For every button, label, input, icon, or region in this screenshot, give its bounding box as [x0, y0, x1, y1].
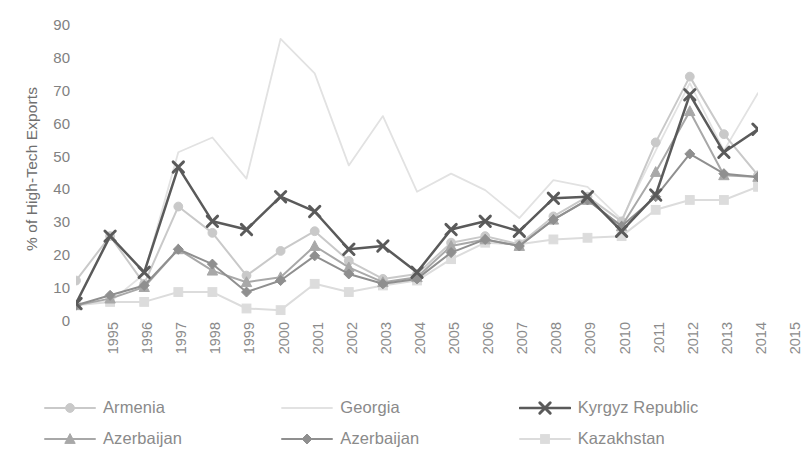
x-tick-label: 2015 [788, 322, 803, 382]
x-tick-label: 2010 [618, 322, 633, 382]
y-tick-label: 30 [28, 214, 70, 229]
legend-marker-none-icon [281, 400, 333, 416]
legend-item-armenia-0[interactable]: Armenia [44, 398, 281, 417]
legend-label: Armenia [103, 398, 165, 417]
x-tick-label: 1995 [106, 322, 121, 382]
legend-item-azerbaijan-4[interactable]: Azerbaijan [281, 429, 518, 448]
x-tick-label: 2013 [720, 322, 735, 382]
x-tick-label: 1999 [242, 322, 257, 382]
chart-legend: ArmeniaGeorgiaKyrgyz RepublicAzerbaijanA… [44, 392, 756, 454]
y-axis-tick-labels: 9080706050403020100 [28, 10, 70, 326]
x-tick-label: 2002 [345, 322, 360, 382]
legend-label: Azerbaijan [340, 429, 419, 448]
x-tick-label: 2008 [549, 322, 564, 382]
x-tick-label: 1998 [208, 322, 223, 382]
legend-item-kazakhstan-5[interactable]: Kazakhstan [519, 429, 756, 448]
x-tick-label: 2009 [583, 322, 598, 382]
series-armenia-0 [76, 72, 758, 288]
legend-item-kyrgyz-republic-2[interactable]: Kyrgyz Republic [519, 398, 756, 417]
x-tick-label: 1997 [174, 322, 189, 382]
x-tick-label: 2001 [311, 322, 326, 382]
y-tick-label: 80 [28, 49, 70, 64]
y-tick-label: 50 [28, 148, 70, 163]
legend-marker-diamond-icon [281, 431, 333, 447]
y-tick-label: 90 [28, 17, 70, 32]
legend-label: Azerbaijan [103, 429, 182, 448]
legend-marker-circle-icon [44, 400, 96, 416]
x-tick-label: 2005 [447, 322, 462, 382]
x-tick-label: 2000 [277, 322, 292, 382]
legend-label: Georgia [340, 398, 399, 417]
y-tick-label: 10 [28, 280, 70, 295]
legend-marker-square-icon [519, 431, 571, 447]
y-tick-label: 0 [28, 313, 70, 328]
x-tick-label: 1996 [140, 322, 155, 382]
y-tick-label: 20 [28, 247, 70, 262]
y-tick-label: 70 [28, 82, 70, 97]
x-tick-label: 2004 [413, 322, 428, 382]
x-tick-label: 2007 [515, 322, 530, 382]
x-axis-tick-labels: 1995199619971998199920002001200220032004… [76, 322, 758, 388]
legend-marker-triangle-icon [44, 431, 96, 447]
legend-item-azerbaijan-3[interactable]: Azerbaijan [44, 429, 281, 448]
legend-label: Kyrgyz Republic [578, 398, 699, 417]
x-tick-label: 2006 [481, 322, 496, 382]
x-tick-label: 2012 [686, 322, 701, 382]
legend-label: Kazakhstan [578, 429, 665, 448]
x-tick-label: 2003 [379, 322, 394, 382]
x-tick-label: 2014 [754, 322, 769, 382]
y-tick-label: 60 [28, 115, 70, 130]
y-tick-label: 40 [28, 181, 70, 196]
x-tick-label: 2011 [652, 322, 667, 382]
plot-area [76, 24, 758, 320]
legend-marker-x-icon [519, 400, 571, 416]
legend-item-georgia-1[interactable]: Georgia [281, 398, 518, 417]
